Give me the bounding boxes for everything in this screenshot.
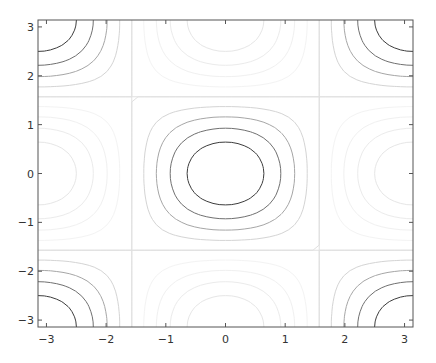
- y-tick-label: −1: [18, 216, 34, 229]
- y-tick-label: −2: [18, 265, 34, 278]
- x-tick-label: 0: [222, 333, 229, 346]
- y-tick-label: 0: [27, 168, 34, 181]
- contour-level-0.8: [38, 20, 413, 327]
- plot-frame: [38, 20, 413, 327]
- contour-level-0.4: [38, 20, 413, 327]
- contour-level--0.4: [38, 20, 413, 327]
- x-tick-label: −1: [158, 333, 174, 346]
- y-tick-label: 1: [27, 119, 34, 132]
- x-tick-label: −3: [38, 333, 54, 346]
- x-tick-label: −2: [98, 333, 114, 346]
- contour-level-0.2: [38, 20, 413, 327]
- y-tick-label: 2: [27, 70, 34, 83]
- x-axis-ticks: −3−2−10123: [38, 20, 408, 346]
- x-tick-label: 1: [282, 333, 289, 346]
- contour-chart: −3−2−10123 −3−2−10123: [0, 0, 436, 363]
- y-axis-ticks: −3−2−10123: [18, 21, 413, 327]
- contour-level-0: [38, 20, 413, 327]
- contour-level--0.8: [38, 20, 413, 327]
- contour-lines: [38, 20, 413, 327]
- contour-level--0.6: [38, 20, 413, 327]
- contour-level--0.2: [38, 20, 413, 327]
- y-tick-label: −3: [18, 314, 34, 327]
- contour-level-0.6: [38, 20, 413, 327]
- x-tick-label: 2: [341, 333, 348, 346]
- x-tick-label: 3: [401, 333, 408, 346]
- y-tick-label: 3: [27, 21, 34, 34]
